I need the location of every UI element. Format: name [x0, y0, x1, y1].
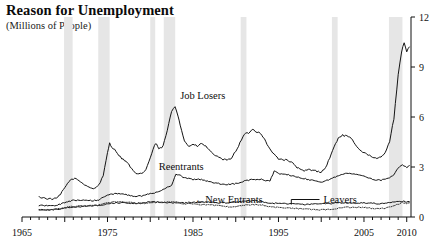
y-tick-label-0: 0: [419, 212, 424, 223]
chart-figure: Reason for Unemployment (Millions of Peo…: [0, 0, 434, 246]
recession-band-4: [241, 17, 247, 217]
y-tick-label-12: 12: [419, 12, 429, 23]
x-tick-label-1995: 1995: [268, 227, 288, 238]
recession-band-1: [98, 17, 109, 217]
series-label-reentrants: Reentrants: [159, 161, 204, 172]
recession-bands-group: [64, 17, 402, 217]
y-tick-label-6: 6: [419, 112, 424, 123]
x-tick-label-2010: 2010: [397, 227, 417, 238]
recession-band-6: [389, 17, 403, 217]
series-line-job-losers: [39, 43, 409, 200]
x-tick-label-2005: 2005: [354, 227, 374, 238]
x-tick-label-1985: 1985: [183, 227, 203, 238]
annotation-labels-group: Job LosersReentrants←New EntrantsLeavers: [159, 90, 357, 206]
y-tick-label-3: 3: [419, 162, 424, 173]
y-tick-label-9: 9: [419, 62, 424, 73]
recession-band-2: [150, 17, 155, 217]
series-label-leavers: Leavers: [324, 194, 357, 205]
chart-canvas: Job LosersReentrants←New EntrantsLeavers…: [0, 0, 434, 246]
x-tick-label-1975: 1975: [97, 227, 117, 238]
series-label-new-entrants: ←New Entrants: [195, 194, 263, 205]
recession-band-5: [332, 17, 338, 217]
x-tick-label-1965: 1965: [12, 227, 32, 238]
axes-group: [22, 17, 415, 222]
series-lines-group: [39, 43, 409, 211]
series-label-job-losers: Job Losers: [180, 90, 225, 101]
